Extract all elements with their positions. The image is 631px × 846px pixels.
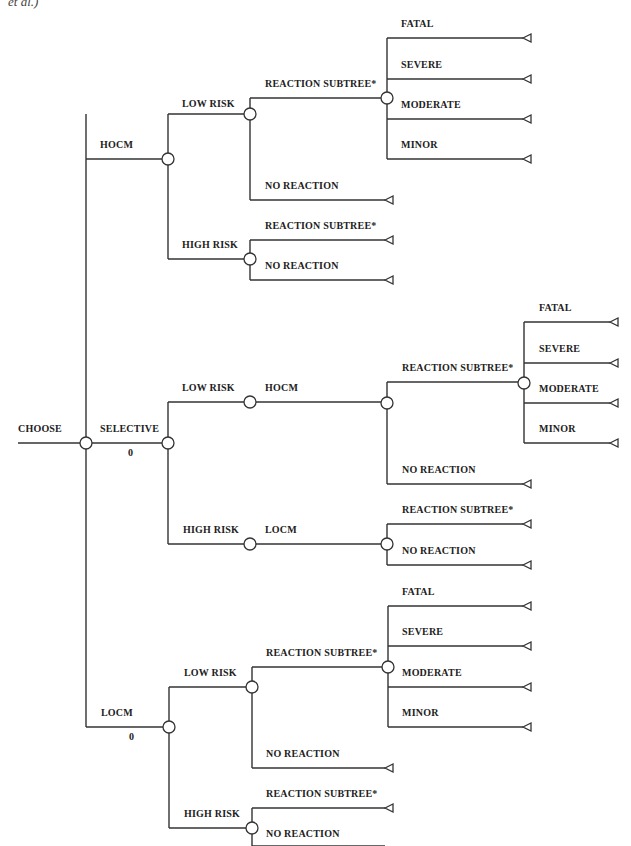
- terminal-icon: [523, 683, 531, 691]
- terminal-icon: [523, 602, 531, 610]
- reaction-subtree-label: REACTION SUBTREE*: [402, 362, 513, 373]
- terminal-icon: [523, 34, 531, 42]
- high-risk-label: HIGH RISK: [184, 808, 240, 819]
- strategy-locm-value: 0: [129, 731, 134, 742]
- decision-tree: [0, 0, 631, 846]
- terminal-icon: [610, 439, 618, 447]
- terminal-icon: [523, 520, 531, 528]
- terminal-icon: [385, 236, 393, 244]
- terminal-icon: [523, 561, 531, 569]
- chance-node-icon: [163, 721, 175, 733]
- fatal-label: FATAL: [401, 18, 434, 29]
- moderate-label: MODERATE: [401, 99, 461, 110]
- reaction-subtree-label: REACTION SUBTREE*: [265, 78, 376, 89]
- root-label: CHOOSE: [18, 423, 62, 434]
- fatal-label: FATAL: [539, 302, 572, 313]
- minor-label: MINOR: [402, 707, 439, 718]
- moderate-label: MODERATE: [539, 383, 599, 394]
- reaction-subtree-label: REACTION SUBTREE*: [266, 647, 377, 658]
- chance-node-icon: [244, 396, 256, 408]
- strategy-hocm-label: HOCM: [100, 139, 133, 150]
- severe-label: SEVERE: [402, 626, 443, 637]
- terminal-icon: [523, 115, 531, 123]
- no-reaction-label: NO REACTION: [402, 545, 476, 556]
- no-reaction-label: NO REACTION: [265, 260, 339, 271]
- reaction-subtree-label: REACTION SUBTREE*: [402, 504, 513, 515]
- high-risk-label: HIGH RISK: [183, 524, 239, 535]
- terminal-icon: [523, 480, 531, 488]
- locm-label: LOCM: [265, 524, 297, 535]
- chance-node-icon: [80, 437, 92, 449]
- terminal-icon: [523, 723, 531, 731]
- terminal-icon: [610, 359, 618, 367]
- severe-label: SEVERE: [401, 59, 442, 70]
- terminal-icon: [385, 804, 393, 812]
- terminal-icon: [385, 276, 393, 284]
- terminal-icon: [523, 75, 531, 83]
- chance-node-icon: [518, 377, 530, 389]
- minor-label: MINOR: [401, 139, 438, 150]
- chance-node-icon: [246, 681, 258, 693]
- terminal-icon: [610, 318, 618, 326]
- chance-node-icon: [246, 822, 258, 834]
- moderate-label: MODERATE: [402, 667, 462, 678]
- strategy-selective-label: SELECTIVE: [100, 423, 159, 434]
- minor-label: MINOR: [539, 423, 576, 434]
- strategy-selective-value: 0: [128, 447, 133, 458]
- severe-label: SEVERE: [539, 343, 580, 354]
- no-reaction-label: NO REACTION: [266, 828, 340, 839]
- terminal-icon: [385, 764, 393, 772]
- low-risk-label: LOW RISK: [182, 98, 235, 109]
- chance-node-icon: [381, 538, 393, 550]
- low-risk-label: LOW RISK: [182, 382, 235, 393]
- chance-node-icon: [162, 153, 174, 165]
- reaction-subtree-label: REACTION SUBTREE*: [266, 788, 377, 799]
- fatal-label: FATAL: [402, 586, 435, 597]
- chance-node-icon: [244, 538, 256, 550]
- chance-node-icon: [162, 437, 174, 449]
- strategy-locm-label: LOCM: [101, 707, 133, 718]
- chance-node-icon: [244, 108, 256, 120]
- chance-node-icon: [381, 397, 393, 409]
- terminal-icon: [385, 196, 393, 204]
- hocm-label: HOCM: [265, 382, 298, 393]
- chance-node-icon: [381, 92, 393, 104]
- terminal-icon: [610, 399, 618, 407]
- chance-node-icon: [382, 661, 394, 673]
- high-risk-label: HIGH RISK: [182, 239, 238, 250]
- terminal-icon: [523, 642, 531, 650]
- low-risk-label: LOW RISK: [184, 667, 237, 678]
- no-reaction-label: NO REACTION: [266, 748, 340, 759]
- chance-node-icon: [244, 253, 256, 265]
- no-reaction-label: NO REACTION: [402, 464, 476, 475]
- no-reaction-label: NO REACTION: [265, 180, 339, 191]
- reaction-subtree-label: REACTION SUBTREE*: [265, 220, 376, 231]
- terminal-icon: [523, 155, 531, 163]
